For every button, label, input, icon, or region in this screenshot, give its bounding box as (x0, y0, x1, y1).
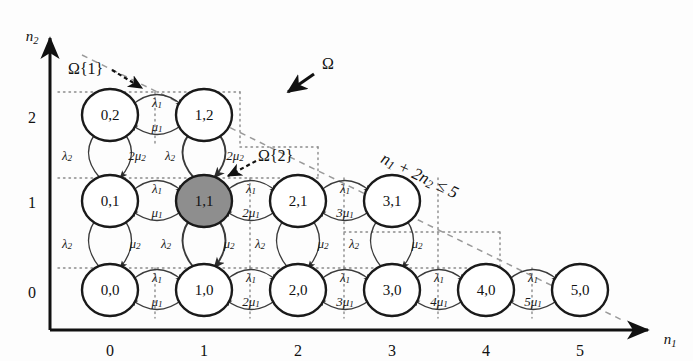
state-node-2-0[interactable]: 2,0 (270, 264, 326, 316)
rate-30-31-up: λ2 (348, 236, 360, 252)
rate-20-30-forward: λ1 (339, 270, 350, 286)
rate-01-00-down: μ2 (128, 236, 141, 252)
rate-01-02-up: λ2 (61, 148, 73, 164)
state-node-3-0[interactable]: 3,0 (364, 264, 420, 316)
state-node-0-0[interactable]: 0,0 (82, 264, 138, 316)
state-label: 5,0 (571, 282, 590, 298)
state-node-1-0[interactable]: 1,0 (176, 264, 232, 316)
state-node-1-1[interactable]: 1,1 (176, 175, 232, 227)
omega-region-label: Ω (322, 55, 334, 72)
state-label: 0,2 (101, 107, 120, 123)
rate-31-30-down: μ2 (410, 236, 423, 252)
y-tick-0: 0 (28, 284, 36, 301)
rate-11-21-forward: λ1 (245, 181, 256, 197)
rate-10-20-forward: λ1 (245, 270, 256, 286)
rate-20-10-backward: 2μ1 (242, 294, 260, 310)
rate-00-01-up: λ2 (61, 236, 73, 252)
x-axis-name: n1 (664, 331, 677, 349)
rate-11-12-up: λ2 (164, 148, 176, 164)
rate-40-50-forward: λ1 (527, 270, 538, 286)
state-label: 1,1 (195, 193, 214, 209)
rate-10-00-backward: μ1 (150, 294, 162, 310)
state-label: 1,0 (195, 282, 214, 298)
state-label: 0,0 (101, 282, 120, 298)
state-label: 3,1 (383, 193, 402, 209)
rate-02-12-forward: λ1 (151, 95, 162, 111)
omega-set-2-pointer (228, 161, 256, 176)
state-label: 3,0 (383, 282, 402, 298)
rate-21-31-forward: λ1 (339, 181, 350, 197)
rate-11-01-backward: μ1 (150, 205, 162, 221)
state-label: 1,2 (195, 107, 214, 123)
x-tick-1: 1 (200, 342, 208, 359)
x-tick-5: 5 (576, 342, 584, 359)
y-axis-name: n2 (26, 28, 40, 46)
state-node-4-0[interactable]: 4,0 (458, 264, 514, 316)
y-tick-1: 1 (28, 194, 36, 211)
state-label: 2,1 (289, 193, 308, 209)
omega-region-pointer (288, 74, 314, 92)
omega-set-1-label: Ω{1} (68, 60, 103, 77)
rate-21-11-backward: 2μ1 (242, 205, 260, 221)
state-node-5-0[interactable]: 5,0 (552, 264, 608, 316)
rate-30-20-backward: 3μ1 (335, 294, 354, 310)
state-label: 2,0 (289, 282, 308, 298)
state-node-0-2[interactable]: 0,2 (82, 89, 138, 141)
state-node-2-1[interactable]: 2,1 (270, 175, 326, 227)
rate-12-02-backward: μ1 (150, 119, 162, 135)
rate-11-10-down: μ2 (222, 236, 235, 252)
rate-50-40-backward: 5μ1 (524, 294, 542, 310)
state-node-1-2[interactable]: 1,2 (176, 89, 232, 141)
state-transition-diagram: n2 n1 0 1 2 3 4 5 0 1 2 (0, 0, 693, 361)
y-tick-2: 2 (28, 109, 36, 126)
rate-20-21-up: λ2 (254, 236, 266, 252)
rate-30-40-forward: λ1 (433, 270, 444, 286)
rate-31-21-backward: 3μ1 (335, 205, 354, 221)
state-label: 4,0 (477, 282, 496, 298)
x-tick-2: 2 (294, 342, 302, 359)
omega-set-2-label: Ω{2} (258, 147, 293, 164)
figure-canvas: n2 n1 0 1 2 3 4 5 0 1 2 (0, 0, 693, 361)
x-axis-ticks: 0 1 2 3 4 5 (106, 342, 584, 359)
state-node-3-1[interactable]: 3,1 (364, 175, 420, 227)
x-tick-4: 4 (482, 342, 490, 359)
rate-01-11-forward: λ1 (151, 181, 162, 197)
rate-10-11-up: λ2 (160, 236, 172, 252)
y-axis-ticks: 0 1 2 (28, 109, 36, 301)
rate-12-11-down: 2μ2 (226, 148, 244, 164)
x-tick-0: 0 (106, 342, 114, 359)
rate-21-20-down: μ2 (316, 236, 329, 252)
rate-00-10-forward: λ1 (151, 270, 162, 286)
state-node-0-1[interactable]: 0,1 (82, 175, 138, 227)
rate-40-30-backward: 4μ1 (430, 294, 448, 310)
x-tick-3: 3 (388, 342, 396, 359)
state-label: 0,1 (101, 193, 120, 209)
rate-02-01-down: 2μ2 (128, 148, 146, 164)
